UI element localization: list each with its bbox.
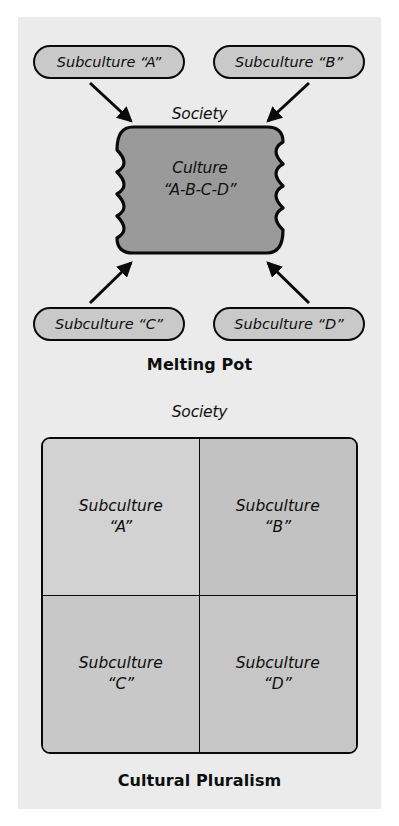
melting-pot-shape	[115, 125, 285, 255]
subculture-c-pill: Subculture “C”	[33, 307, 185, 341]
pluralism-quadrant-box: Subculture “A” Subculture “B” Subculture…	[41, 437, 358, 754]
subculture-a-label: Subculture “A”	[57, 54, 161, 70]
melting-pot-diagram: Subculture “A” Subculture “B” Subculture…	[18, 17, 381, 389]
arrow-d-to-pot	[268, 263, 309, 303]
cultural-pluralism-caption: Cultural Pluralism	[18, 771, 381, 790]
quadrant-c-line-2: “C”	[107, 674, 134, 695]
quadrant-c: Subculture “C”	[43, 596, 200, 753]
artwork-panel: Subculture “A” Subculture “B” Subculture…	[18, 17, 381, 809]
melting-pot-caption: Melting Pot	[18, 355, 381, 374]
quadrant-a-line-2: “A”	[109, 517, 132, 538]
quadrant-b-line-1: Subculture	[236, 496, 320, 517]
quadrant-b-line-2: “B”	[264, 517, 291, 538]
quadrant-a-line-1: Subculture	[79, 496, 163, 517]
quadrant-c-line-1: Subculture	[79, 653, 163, 674]
quadrant-d-line-2: “D”	[264, 674, 292, 695]
quadrant-a: Subculture “A”	[43, 439, 200, 596]
quadrant-b: Subculture “B”	[200, 439, 357, 596]
arrow-c-to-pot	[90, 263, 131, 303]
society-label-pluralism: Society	[18, 403, 381, 421]
diagram-figure: Subculture “A” Subculture “B” Subculture…	[0, 0, 399, 826]
quadrant-d: Subculture “D”	[200, 596, 357, 753]
subculture-d-pill: Subculture “D”	[213, 307, 365, 341]
quadrant-d-line-1: Subculture	[236, 653, 320, 674]
subculture-b-pill: Subculture “B”	[213, 45, 365, 79]
subculture-a-pill: Subculture “A”	[33, 45, 185, 79]
society-label-melting-pot: Society	[18, 105, 381, 123]
subculture-c-label: Subculture “C”	[55, 316, 163, 332]
subculture-d-label: Subculture “D”	[234, 316, 343, 332]
subculture-b-label: Subculture “B”	[235, 54, 343, 70]
cultural-pluralism-diagram: Society Subculture “A” Subculture “B” Su…	[18, 389, 381, 809]
